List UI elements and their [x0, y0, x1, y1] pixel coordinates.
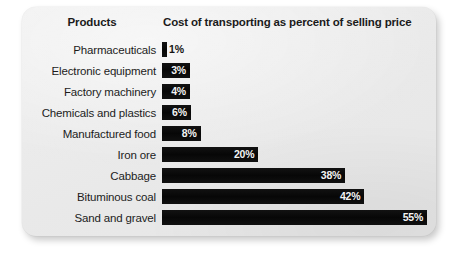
bar: [162, 42, 167, 57]
bar-value-label: 1%: [169, 44, 184, 55]
bar: 4%: [162, 84, 190, 99]
chart-body: Products Cost of transporting as percent…: [22, 7, 436, 228]
bar-value-label: 38%: [321, 170, 341, 181]
bar: 8%: [162, 126, 201, 141]
bar: 20%: [162, 147, 258, 162]
screenshot-canvas: Products Cost of transporting as percent…: [0, 0, 463, 255]
bar: 3%: [162, 63, 190, 78]
bar-track: 6%: [162, 105, 436, 120]
bar-rows: Pharmaceuticals1%Electronic equipment3%F…: [22, 39, 436, 228]
category-label: Electronic equipment: [22, 65, 162, 77]
bar-track: 20%: [162, 147, 436, 162]
category-label: Cabbage: [22, 170, 162, 182]
chart-header-row: Products Cost of transporting as percent…: [22, 16, 436, 36]
chart-row: Factory machinery4%: [22, 81, 436, 102]
chart-row: Bituminous coal42%: [22, 186, 436, 207]
bar-track: 4%: [162, 84, 436, 99]
bar-track: 3%: [162, 63, 436, 78]
chart-row: Electronic equipment3%: [22, 60, 436, 81]
chart-row: Pharmaceuticals1%: [22, 39, 436, 60]
chart-row: Iron ore20%: [22, 144, 436, 165]
bar-value-label: 3%: [171, 65, 186, 76]
bar: 42%: [162, 189, 364, 204]
column-header-cost: Cost of transporting as percent of selli…: [163, 16, 411, 28]
bar-track: 8%: [162, 126, 436, 141]
category-label: Sand and gravel: [22, 212, 162, 224]
category-label: Bituminous coal: [22, 191, 162, 203]
category-label: Manufactured food: [22, 128, 162, 140]
bar-track: 38%: [162, 168, 436, 183]
category-label: Factory machinery: [22, 86, 162, 98]
chart-row: Manufactured food8%: [22, 123, 436, 144]
bar-value-label: 4%: [171, 86, 186, 97]
chart-card: Products Cost of transporting as percent…: [22, 7, 436, 236]
bar-track: 42%: [162, 189, 436, 204]
category-label: Chemicals and plastics: [22, 107, 162, 119]
bar-value-label: 8%: [182, 128, 197, 139]
bar-track: 55%: [162, 210, 436, 225]
column-header-products: Products: [22, 16, 162, 28]
bar: 55%: [162, 210, 427, 225]
bar: 6%: [162, 105, 191, 120]
chart-row: Sand and gravel55%: [22, 207, 436, 228]
bar-track: 1%: [162, 42, 436, 57]
chart-row: Cabbage38%: [22, 165, 436, 186]
bar-value-label: 42%: [340, 191, 360, 202]
category-label: Iron ore: [22, 149, 162, 161]
chart-row: Chemicals and plastics6%: [22, 102, 436, 123]
bar-value-label: 20%: [234, 149, 254, 160]
bar-value-label: 6%: [172, 107, 187, 118]
bar: 38%: [162, 168, 345, 183]
bar-value-label: 55%: [403, 212, 423, 223]
category-label: Pharmaceuticals: [22, 44, 162, 56]
